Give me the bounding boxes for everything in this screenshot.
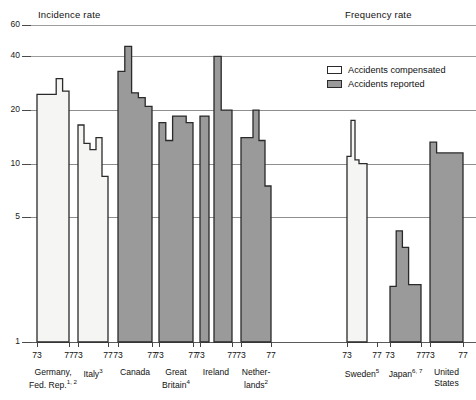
x-axis-tick [390,342,391,347]
x-axis-tick [193,342,194,347]
series-united-states [430,0,465,400]
group-label-line: States [405,378,476,389]
series-shape [200,116,209,342]
series-great-britain [159,0,195,400]
series-shape [37,79,69,342]
x-axis-tick [37,342,38,347]
series-ireland-b [214,0,234,400]
y-tick-label-20: 20 [2,105,20,114]
group-label-line: lands2 [214,378,298,391]
x-axis-tick [241,342,242,347]
series-shape [430,142,463,342]
x-tick-label: 73 [108,350,128,361]
x-axis-tick [69,342,70,347]
series-sweden [347,0,369,400]
x-tick-label: 73 [149,350,169,361]
x-tick-label: 73 [190,350,210,361]
series-shape [159,116,193,342]
group-label-line: Nether- [214,367,298,378]
x-axis-tick [271,342,272,347]
series-shape [241,110,271,342]
y-tick-label-60: 60 [2,20,20,29]
series-canada [118,0,154,400]
x-axis-tick [232,342,233,347]
plot-area [30,0,476,400]
series-shape [347,120,367,342]
x-axis-tick [463,342,464,347]
series-shape [214,56,232,342]
group-label-line: United [405,367,476,378]
x-tick-label: 77 [453,350,473,361]
series-netherlands [241,0,273,400]
x-axis-tick [377,342,378,347]
group-label-nether-lands: Nether-lands2 [214,367,298,391]
x-tick-label: 73 [380,350,400,361]
series-shape [118,46,152,342]
x-tick-label: 73 [420,350,440,361]
x-axis-tick [347,342,348,347]
x-axis-tick [78,342,79,347]
x-axis-tick [108,342,109,347]
x-tick-label: 73 [68,350,88,361]
group-label-line: Fed. Rep.1, 2 [11,378,95,391]
series-germany-fed-rep- [37,0,71,400]
group-label-united-states: UnitedStates [405,367,476,389]
footnote-marker: 4 [186,378,189,385]
x-tick-label: 73 [27,350,47,361]
series-japan [390,0,423,400]
y-tick-label-5: 5 [2,212,20,221]
y-tick-label-40: 40 [2,51,20,60]
x-tick-label: 73 [231,350,251,361]
x-tick-label: 73 [337,350,357,361]
group-label-line: Britain4 [134,378,218,391]
x-axis-tick [421,342,422,347]
footnote-marker: 2 [265,378,268,385]
x-axis-tick [430,342,431,347]
series-ireland-a [200,0,211,400]
x-axis-tick [200,342,201,347]
y-tick-label-1: 1 [2,337,20,346]
x-axis-tick [152,342,153,347]
x-axis-tick [159,342,160,347]
series-shape [390,231,421,342]
series-italy [78,0,110,400]
x-axis-tick [118,342,119,347]
x-tick-label: 77 [261,350,281,361]
chart-container: Incidence rate Frequency rate 1510204060… [0,0,476,400]
series-shape [78,125,108,342]
y-tick-label-10: 10 [2,159,20,168]
